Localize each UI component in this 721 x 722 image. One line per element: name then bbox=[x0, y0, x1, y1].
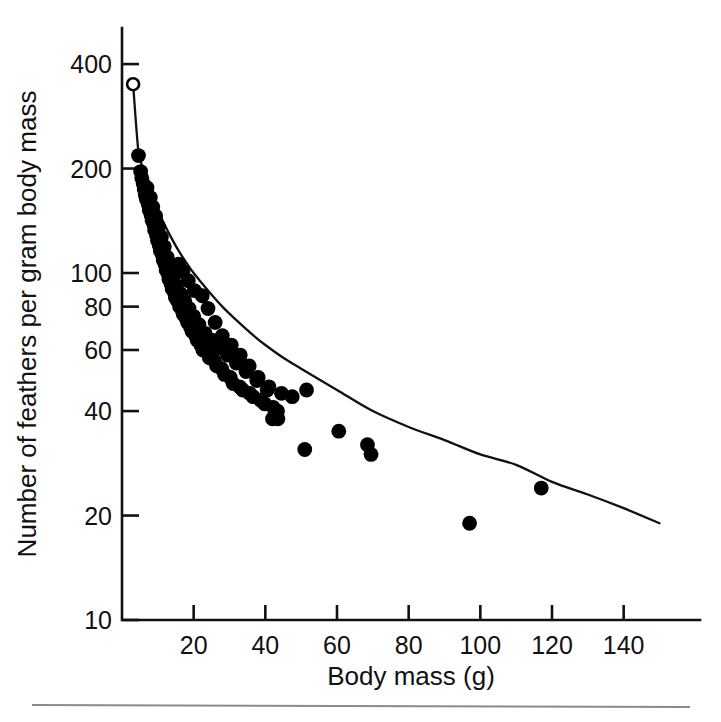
data-point bbox=[270, 411, 285, 426]
data-point bbox=[364, 447, 379, 462]
y-tick-label-80: 80 bbox=[84, 293, 112, 321]
y-tick-label-60: 60 bbox=[84, 336, 112, 364]
x-tick-label-140: 140 bbox=[603, 631, 645, 659]
x-tick-label-60: 60 bbox=[323, 631, 351, 659]
data-point bbox=[187, 283, 202, 298]
x-tick-label-20: 20 bbox=[180, 631, 208, 659]
open-circle-points bbox=[127, 78, 139, 90]
data-point-open bbox=[127, 78, 139, 90]
x-tick-label-100: 100 bbox=[459, 631, 501, 659]
data-point bbox=[251, 370, 266, 385]
y-axis-title: Number of feathers per gram body mass bbox=[12, 91, 42, 558]
data-point bbox=[297, 442, 312, 457]
x-tick-label-80: 80 bbox=[395, 631, 423, 659]
data-point bbox=[534, 481, 549, 496]
data-point bbox=[331, 424, 346, 439]
data-point bbox=[285, 389, 300, 404]
data-point bbox=[242, 358, 257, 373]
data-point bbox=[260, 383, 275, 398]
scatter-chart: 1020406080100200400 20406080100120140 Bo… bbox=[0, 0, 721, 722]
data-point bbox=[462, 516, 477, 531]
y-tick-label-400: 400 bbox=[70, 50, 112, 78]
y-tick-label-100: 100 bbox=[70, 259, 112, 287]
data-point bbox=[299, 383, 314, 398]
y-tick-label-200: 200 bbox=[70, 155, 112, 183]
figure-container: 1020406080100200400 20406080100120140 Bo… bbox=[0, 0, 721, 722]
x-tick-label-40: 40 bbox=[251, 631, 279, 659]
data-point bbox=[201, 301, 216, 316]
data-point bbox=[208, 315, 223, 330]
x-axis-title: Body mass (g) bbox=[327, 661, 495, 691]
data-point bbox=[131, 148, 146, 163]
y-tick-label-20: 20 bbox=[84, 502, 112, 530]
x-tick-label-120: 120 bbox=[531, 631, 573, 659]
y-tick-label-40: 40 bbox=[84, 397, 112, 425]
y-tick-label-10: 10 bbox=[84, 606, 112, 634]
